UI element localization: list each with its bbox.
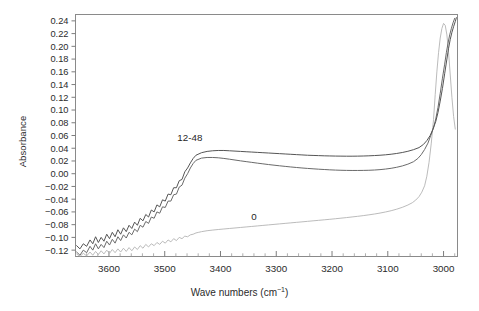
y-tick-label: 0.10 bbox=[50, 105, 68, 115]
series-label-0: 0 bbox=[251, 211, 257, 222]
x-axis-title: Wave numbers (cm−1) bbox=[0, 286, 479, 298]
x-tick-label: 3100 bbox=[377, 263, 399, 274]
y-tick-label: −0.12 bbox=[45, 246, 69, 256]
y-tick-label: 0.24 bbox=[50, 16, 68, 26]
x-tick-label: 3200 bbox=[321, 263, 343, 274]
y-tick-label: −0.04 bbox=[45, 195, 69, 205]
ftir-spectrum-figure: Absorbance 0.240.220.200.180.160.140.120… bbox=[0, 0, 479, 311]
series-label-12-48: 12-48 bbox=[177, 132, 203, 143]
x-axis-title-text: Wave numbers (cm−1) bbox=[191, 287, 289, 298]
y-tick-label: 0.16 bbox=[50, 67, 68, 77]
plot-frame bbox=[76, 15, 458, 257]
plot-canvas: 0.240.220.200.180.160.140.120.100.080.06… bbox=[0, 0, 479, 311]
x-tick-label: 3500 bbox=[154, 263, 176, 274]
y-tick-label: 0.12 bbox=[50, 93, 68, 103]
y-tick-label: 0.22 bbox=[50, 29, 68, 39]
x-tick-label: 3000 bbox=[433, 263, 455, 274]
y-tick-label: −0.08 bbox=[45, 220, 69, 230]
series-curve bbox=[77, 18, 455, 255]
series-curve bbox=[77, 18, 457, 249]
y-tick-label: 0.08 bbox=[50, 118, 68, 128]
y-tick-label: 0.04 bbox=[50, 144, 68, 154]
y-tick-label: −0.10 bbox=[45, 233, 69, 243]
y-tick-label: 0.18 bbox=[50, 54, 68, 64]
x-tick-label: 3400 bbox=[210, 263, 232, 274]
y-tick-label: 0.20 bbox=[50, 42, 68, 52]
y-tick-label: 0.14 bbox=[50, 80, 68, 90]
x-tick-label: 3600 bbox=[98, 263, 120, 274]
x-tick-label: 3300 bbox=[265, 263, 287, 274]
annotations: 12-480 bbox=[177, 132, 257, 222]
x-axis: 3600350034003300320031003000 bbox=[98, 251, 455, 274]
y-tick-label: −0.02 bbox=[45, 182, 69, 192]
y-tick-label: 0.06 bbox=[50, 131, 68, 141]
y-tick-label: −0.06 bbox=[45, 207, 69, 217]
y-tick-label: 0.00 bbox=[50, 169, 68, 179]
series-curve bbox=[77, 23, 456, 256]
series-group bbox=[77, 18, 457, 257]
y-tick-label: 0.02 bbox=[50, 156, 68, 166]
y-axis: 0.240.220.200.180.160.140.120.100.080.06… bbox=[45, 16, 76, 255]
